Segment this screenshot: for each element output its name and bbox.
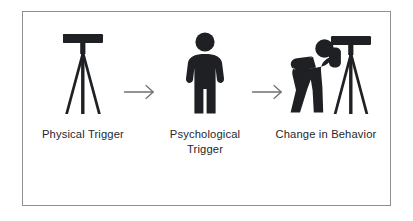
- stage-label-psychological-trigger: Psychological Trigger: [170, 127, 240, 156]
- standing-person-icon: [177, 30, 233, 118]
- stage-label-change-in-behavior: Change in Behavior: [276, 127, 377, 142]
- diagram-frame: Physical Trigger: [22, 11, 391, 206]
- stage-change-in-behavior: Change in Behavior: [266, 30, 386, 142]
- person-looking-through-telescope-icon: [274, 30, 378, 118]
- stage-label-physical-trigger: Physical Trigger: [42, 127, 124, 142]
- stage-psychological-trigger: Psychological Trigger: [145, 30, 265, 156]
- telescope-on-tripod-icon: [46, 30, 120, 118]
- process-flow-row: Physical Trigger: [23, 12, 390, 205]
